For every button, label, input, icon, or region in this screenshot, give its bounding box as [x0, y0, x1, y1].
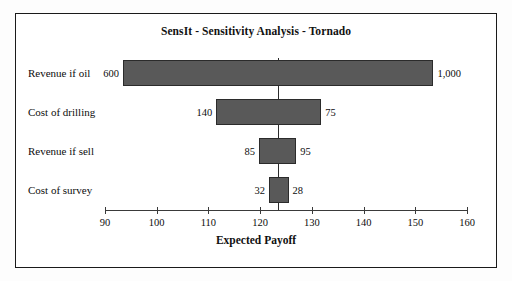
- tornado-bar-high-value: 28: [293, 185, 304, 196]
- x-axis-line: [105, 210, 467, 211]
- x-axis-tick: [467, 207, 468, 214]
- x-axis-tick-label: 110: [191, 217, 225, 228]
- x-axis-tick: [208, 207, 209, 214]
- x-axis-tick: [260, 207, 261, 214]
- tornado-row-label: Cost of drilling: [28, 106, 95, 118]
- tornado-row: Revenue if oil6001,000: [16, 56, 496, 90]
- tornado-bar-low-value: 85: [217, 146, 255, 157]
- tornado-bar[interactable]: [216, 99, 321, 125]
- screenshot-root: SensIt - Sensitivity Analysis - Tornado …: [0, 0, 512, 281]
- tornado-bar-low-value: 600: [81, 68, 119, 79]
- x-axis-tick-label: 150: [398, 217, 432, 228]
- x-axis-tick-label: 160: [450, 217, 484, 228]
- tornado-row: Cost of drilling14075: [16, 95, 496, 129]
- x-axis-tick-label: 90: [88, 217, 122, 228]
- tornado-plot: Revenue if oil6001,000Cost of drilling14…: [16, 14, 496, 267]
- tornado-row: Cost of survey3228: [16, 173, 496, 207]
- tornado-bar[interactable]: [259, 138, 296, 164]
- x-axis-tick-label: 140: [347, 217, 381, 228]
- x-axis-tick-label: 130: [295, 217, 329, 228]
- tornado-bar[interactable]: [123, 60, 433, 86]
- x-axis-tick: [312, 207, 313, 214]
- x-axis-tick: [105, 207, 106, 214]
- tornado-bar-high-value: 75: [325, 107, 336, 118]
- tornado-row-label: Revenue if sell: [28, 145, 94, 157]
- x-axis-tick: [157, 207, 158, 214]
- x-axis-tick-label: 100: [140, 217, 174, 228]
- tornado-bar-low-value: 32: [227, 185, 265, 196]
- tornado-bar-high-value: 95: [300, 146, 311, 157]
- x-axis-tick: [415, 207, 416, 214]
- tornado-row: Revenue if sell8595: [16, 134, 496, 168]
- x-axis-tick-label: 120: [243, 217, 277, 228]
- tornado-bar[interactable]: [269, 177, 289, 203]
- chart-frame: SensIt - Sensitivity Analysis - Tornado …: [15, 13, 497, 268]
- x-axis-tick: [364, 207, 365, 214]
- tornado-bar-high-value: 1,000: [437, 68, 461, 79]
- tornado-row-label: Cost of survey: [28, 184, 92, 196]
- tornado-bar-low-value: 140: [174, 107, 212, 118]
- x-axis-title: Expected Payoff: [16, 234, 496, 246]
